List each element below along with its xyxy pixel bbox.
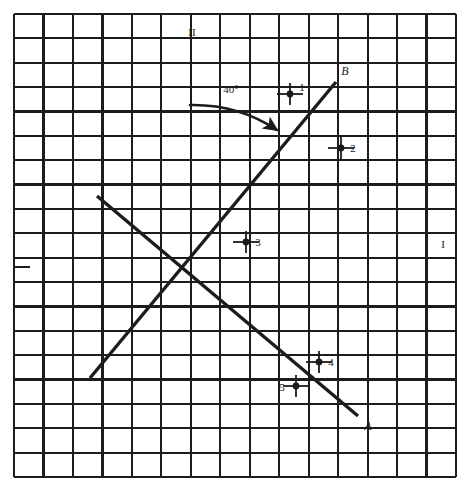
- point-label: 2: [350, 142, 356, 154]
- line-B-label: B: [341, 64, 349, 78]
- geometry-figure: III12345AB40°: [0, 0, 468, 488]
- point-label: 4: [328, 356, 334, 368]
- point-label: 3: [255, 236, 261, 248]
- axis-label-two: II: [188, 26, 196, 38]
- angle-label: 40°: [223, 83, 238, 95]
- figure-canvas: III12345AB40°: [0, 0, 468, 488]
- point-dot: [338, 145, 345, 152]
- point-dot: [316, 359, 323, 366]
- line-A-label: A: [363, 419, 372, 433]
- point-label: 1: [299, 81, 305, 93]
- point-dot: [243, 239, 250, 246]
- point-dot: [287, 91, 294, 98]
- point-dot: [293, 383, 300, 390]
- point-label: 5: [279, 381, 285, 393]
- axis-label-one: I: [441, 238, 445, 250]
